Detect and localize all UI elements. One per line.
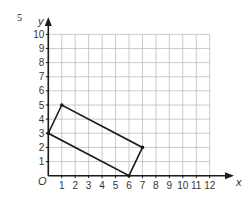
- y-tick-label: 6: [39, 85, 45, 96]
- y-tick-label: 1: [39, 156, 45, 167]
- y-tick-label: 9: [39, 43, 45, 54]
- x-tick-label: 10: [177, 180, 189, 191]
- origin-label: O: [38, 175, 47, 187]
- coordinate-grid-chart: xyO12345678910111212345678910: [0, 0, 244, 198]
- x-tick-label: 11: [191, 180, 202, 191]
- x-tick-label: 2: [72, 180, 78, 191]
- y-tick-label: 10: [33, 29, 45, 40]
- x-axis-arrow-icon: [225, 172, 234, 179]
- y-tick-label: 2: [39, 142, 45, 153]
- y-tick-label: 5: [39, 100, 45, 111]
- grid-lines: [48, 34, 209, 175]
- tick-labels: xyO12345678910111212345678910: [33, 15, 242, 191]
- vertex-point: [47, 131, 51, 135]
- x-tick-label: 5: [113, 180, 119, 191]
- y-tick-label: 3: [39, 128, 45, 139]
- x-tick-label: 7: [140, 180, 146, 191]
- vertex-point: [60, 103, 64, 107]
- y-tick-label: 7: [39, 71, 45, 82]
- y-axis-arrow-icon: [45, 17, 52, 26]
- quadrilateral-shape: [47, 103, 145, 177]
- x-tick-label: 4: [99, 180, 105, 191]
- x-tick-label: 6: [126, 180, 132, 191]
- y-axis-label: y: [37, 15, 45, 27]
- x-axis-label: x: [235, 176, 242, 188]
- x-tick-label: 1: [59, 180, 65, 191]
- x-tick-label: 12: [204, 180, 216, 191]
- y-tick-label: 8: [39, 57, 45, 68]
- x-tick-label: 8: [153, 180, 159, 191]
- x-tick-label: 3: [86, 180, 92, 191]
- vertex-point: [127, 174, 131, 178]
- y-tick-label: 4: [39, 114, 45, 125]
- x-tick-label: 9: [167, 180, 173, 191]
- shape-outline: [48, 105, 142, 176]
- vertex-point: [141, 146, 145, 150]
